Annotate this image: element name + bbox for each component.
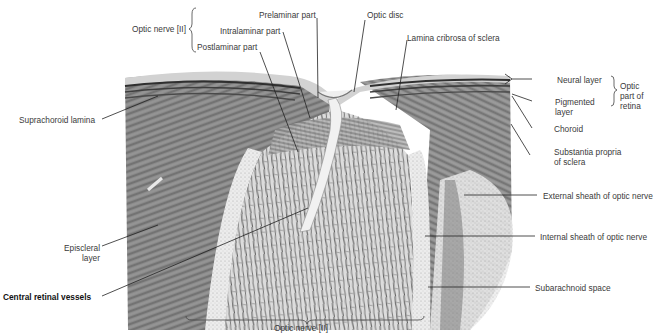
label-choroid: Choroid [554,124,583,134]
label-central-retinal-vessels: Central retinal vessels [3,292,91,302]
label-optic-disc: Optic disc [367,10,403,20]
label-postlaminar-part: Postlaminar part [197,42,257,52]
label-optic-nerve-top: Optic nerve [II] [132,24,186,34]
label-episcleral-line1: Episcleral [40,243,100,253]
label-substantia-propria-line1: Substantia propria [554,147,621,157]
brace-optic-nerve-top [189,8,196,52]
label-optic-part-line1: Optic [620,81,639,91]
label-pigmented-line2: layer [555,107,573,117]
label-intralaminar-part: Intralaminar part [220,26,280,36]
label-optic-part-line2: part of [620,91,644,101]
label-external-sheath: External sheath of optic nerve [543,191,653,201]
label-subarachnoid-space: Subarachnoid space [535,283,611,293]
label-substantia-propria-line2: of sclera [554,157,585,167]
brace-optic-part-of-retina [611,76,617,106]
label-internal-sheath: Internal sheath of optic nerve [540,232,647,242]
optic-nerve-diagram: Optic nerve [II] Prelaminar part Intrala… [0,0,664,336]
label-optic-part-line3: retina [620,101,641,111]
label-prelaminar-part: Prelaminar part [259,10,316,20]
label-episcleral-line2: layer [40,253,100,263]
label-neural-layer: Neural layer [557,75,602,85]
label-optic-nerve-bottom: Optic nerve [II] [274,323,328,333]
label-lamina-cribrosa: Lamina cribrosa of sclera [407,33,500,43]
label-pigmented-line1: Pigmented [555,97,595,107]
label-suprachoroid-lamina: Suprachoroid lamina [19,115,95,125]
